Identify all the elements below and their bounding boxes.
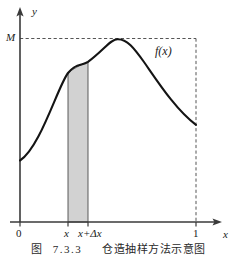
x-tick-label-1: 1 [193, 228, 199, 239]
y-axis-label: y [32, 6, 37, 17]
caption-number: 7.3.3 [53, 243, 83, 255]
caption-label-text: 图 [31, 243, 43, 255]
caption-description: 仓造抽样方法示意图 [102, 243, 206, 255]
x-tick-label-0: 0 [16, 228, 22, 239]
x-tick-label-x: x [64, 228, 69, 239]
x-tick-label-x-plus-delta-x: x+Δx [78, 228, 102, 239]
sample-strip-shaded-region [68, 62, 88, 222]
max-value-label: M [6, 32, 15, 43]
figure-caption: 图7.3.3仓造抽样方法示意图 [0, 240, 237, 256]
curve-label: f(x) [155, 45, 172, 57]
x-axis-label: x [223, 229, 228, 240]
